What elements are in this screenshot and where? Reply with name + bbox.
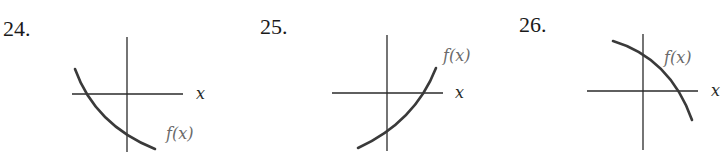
graph-25: x f(x)	[332, 35, 470, 151]
function-label: f(x)	[442, 46, 470, 65]
x-axis-label: x	[196, 84, 205, 103]
graphs-canvas: x f(x) x f(x) x f(x)	[0, 0, 727, 158]
x-axis-label: x	[711, 81, 720, 100]
function-curve	[358, 68, 436, 148]
x-axis-label: x	[455, 83, 464, 102]
function-label: f(x)	[663, 48, 691, 67]
function-label: f(x)	[165, 124, 193, 143]
function-curve	[75, 69, 155, 149]
graph-26: x f(x)	[587, 34, 720, 150]
graph-24: x f(x)	[72, 37, 205, 152]
